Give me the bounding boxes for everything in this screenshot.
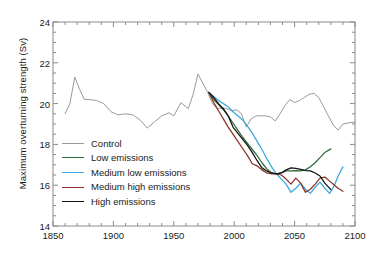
chart-figure: Maximum overturning strength (Sv) 242220… bbox=[0, 0, 372, 254]
series-line-control bbox=[65, 74, 355, 130]
legend-color-swatch bbox=[62, 187, 84, 188]
legend-color-swatch bbox=[62, 172, 84, 173]
legend-label: Medium low emissions bbox=[91, 168, 187, 178]
legend-label: Medium high emissions bbox=[91, 182, 190, 192]
line-chart-plot bbox=[0, 0, 372, 254]
legend-item: High emissions bbox=[62, 194, 242, 209]
legend-color-swatch bbox=[62, 143, 84, 144]
legend-label: High emissions bbox=[91, 197, 155, 207]
legend-color-swatch bbox=[62, 201, 84, 202]
legend-color-swatch bbox=[62, 157, 84, 158]
legend-item: Low emissions bbox=[62, 151, 242, 166]
legend-label: Low emissions bbox=[91, 153, 153, 163]
chart-legend: ControlLow emissionsMedium low emissions… bbox=[62, 136, 242, 209]
legend-item: Medium low emissions bbox=[62, 165, 242, 180]
legend-item: Control bbox=[62, 136, 242, 151]
legend-label: Control bbox=[91, 139, 122, 149]
legend-item: Medium high emissions bbox=[62, 180, 242, 195]
